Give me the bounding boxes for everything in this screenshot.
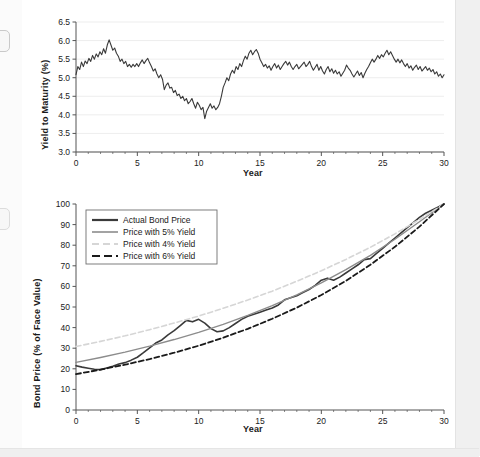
price-plot-svg: 0102030405060708090100051015202530Actual… (0, 196, 460, 446)
y-axis-tick-label: 3.0 (58, 147, 70, 157)
price-y-axis-title: Bond Price (% of Face Value) (32, 278, 42, 408)
x-axis-tick-label: 30 (439, 416, 449, 426)
bond-price-figure: Bond Price (% of Face Value) 01020304050… (0, 196, 460, 446)
x-axis-tick-label: 0 (74, 416, 79, 426)
y-axis-tick-label: 0 (65, 405, 70, 415)
y-axis-tick-label: 5.5 (58, 54, 70, 64)
y-axis-tick-label: 40 (61, 323, 71, 333)
y-axis-tick-label: 70 (61, 261, 71, 271)
y-axis-tick-label: 100 (56, 199, 70, 209)
x-axis-tick-label: 5 (135, 158, 140, 168)
x-axis-tick-label: 10 (194, 416, 204, 426)
legend-label: Actual Bond Price (123, 215, 191, 225)
y-axis-tick-label: 80 (61, 240, 71, 250)
legend-label: Price with 4% Yield (123, 239, 196, 249)
x-axis-tick-label: 20 (317, 416, 327, 426)
x-axis-tick-label: 5 (135, 416, 140, 426)
x-axis-tick-label: 10 (194, 158, 204, 168)
y-axis-tick-label: 5.0 (58, 73, 70, 83)
legend-label: Price with 5% Yield (123, 227, 196, 237)
y-axis-tick-label: 50 (61, 302, 71, 312)
y-axis-tick-label: 3.5 (58, 128, 70, 138)
yield-plot-svg: 3.03.54.04.55.05.56.06.5051015202530 (0, 8, 460, 186)
y-axis-tick-label: 6.0 (58, 36, 70, 46)
y-axis-tick-label: 20 (61, 364, 71, 374)
x-axis-tick-label: 25 (378, 158, 388, 168)
page-bottom-edge (0, 448, 479, 457)
x-axis-tick-label: 30 (439, 158, 449, 168)
yield-to-maturity-figure: Yield to Maturity (%) 3.03.54.04.55.05.5… (0, 8, 460, 186)
plot-background (76, 22, 444, 152)
x-axis-tick-label: 20 (317, 158, 327, 168)
y-axis-tick-label: 60 (61, 281, 71, 291)
x-axis-tick-label: 15 (255, 158, 265, 168)
y-axis-tick-label: 30 (61, 343, 71, 353)
legend-label: Price with 6% Yield (123, 251, 196, 261)
y-axis-tick-label: 10 (61, 384, 71, 394)
x-axis-tick-label: 25 (378, 416, 388, 426)
price-x-axis-title: Year (243, 424, 263, 434)
y-axis-tick-label: 6.5 (58, 17, 70, 27)
x-axis-tick-label: 0 (74, 158, 79, 168)
y-axis-tick-label: 90 (61, 220, 71, 230)
y-axis-tick-label: 4.5 (58, 91, 70, 101)
yield-y-axis-title: Yield to Maturity (%) (40, 60, 50, 150)
yield-x-axis-title: Year (243, 168, 263, 178)
y-axis-tick-label: 4.0 (58, 110, 70, 120)
